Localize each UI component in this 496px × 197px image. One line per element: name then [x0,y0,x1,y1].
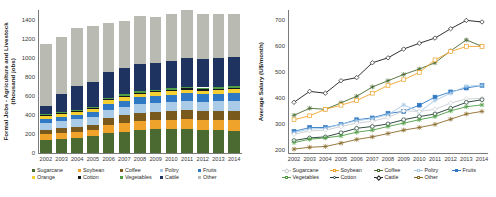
bar-segment-orange[interactable] [197,91,209,95]
bar-segment-other[interactable] [119,21,131,69]
bar-segment-fruits[interactable] [87,112,99,117]
bar-segment-cattle[interactable] [166,61,178,88]
bar-segment-cattle[interactable] [103,72,115,98]
table-row[interactable] [87,10,99,153]
bar-segment-other[interactable] [228,14,240,57]
bar-segment-poltry[interactable] [71,119,83,126]
legend-item-coffee[interactable]: Coffee [120,167,160,174]
line-series-sugarcane[interactable] [292,96,484,136]
table-row[interactable] [166,10,178,153]
bar-segment-orange[interactable] [40,116,52,119]
bar-segment-vegetables[interactable] [150,90,162,92]
bar-segment-coffee[interactable] [166,111,178,120]
bar-segment-sugarcane[interactable] [103,133,115,153]
bar-segment-coffee[interactable] [40,130,52,135]
bar-segment-fruits[interactable] [228,93,240,101]
bar-segment-vegetables[interactable] [40,114,52,115]
bar-segment-vegetables[interactable] [166,88,178,90]
bar-segment-cattle[interactable] [181,58,193,86]
table-row[interactable] [228,10,240,153]
bar-segment-orange[interactable] [150,92,162,96]
bar-segment-coffee[interactable] [71,127,83,132]
bar-segment-poltry[interactable] [181,101,193,111]
bar-segment-poltry[interactable] [213,101,225,111]
bar-segment-coffee[interactable] [181,110,193,119]
bar-segment-sugarcane[interactable] [181,129,193,153]
bar-segment-poltry[interactable] [150,103,162,112]
table-row[interactable] [119,10,131,153]
bar-segment-poltry[interactable] [87,117,99,124]
bar-segment-poltry[interactable] [134,104,146,113]
legend-item-cattle[interactable]: Cattle [160,174,198,181]
bar-segment-cattle[interactable] [213,58,225,87]
legend-item-poltry[interactable]: Poltry [160,167,198,174]
table-row[interactable] [56,10,68,153]
bar-segment-cattle[interactable] [228,57,240,86]
bar-segment-cattle[interactable] [197,59,209,88]
bar-segment-cotton[interactable] [197,89,209,90]
bar-segment-cotton[interactable] [56,113,68,114]
bar-segment-cotton[interactable] [103,99,115,100]
bar-segment-fruits[interactable] [71,115,83,120]
bar-segment-soybean[interactable] [150,120,162,129]
table-row[interactable] [213,10,225,153]
bar-segment-sugarcane[interactable] [134,130,146,153]
bar-segment-coffee[interactable] [228,111,240,121]
legend-item-other[interactable]: Other [414,174,452,181]
bar-segment-cattle[interactable] [56,94,68,112]
legend-item-coffee[interactable]: Coffee [374,167,414,174]
bar-segment-soybean[interactable] [119,123,131,131]
bar-segment-soybean[interactable] [56,133,68,139]
bar-segment-soybean[interactable] [166,120,178,129]
table-row[interactable] [40,10,52,153]
bar-segment-vegetables[interactable] [197,88,209,90]
bar-segment-cattle[interactable] [40,106,52,114]
bar-segment-fruits[interactable] [181,93,193,100]
bar-segment-fruits[interactable] [150,96,162,103]
bar-segment-vegetables[interactable] [228,86,240,88]
bar-segment-other[interactable] [56,37,68,93]
legend-item-vegetables[interactable]: Vegetables [120,174,160,181]
bar-segment-vegetables[interactable] [181,87,193,89]
bar-segment-other[interactable] [134,16,146,64]
bar-segment-soybean[interactable] [87,130,99,136]
legend-item-soybean[interactable]: Soybean [330,167,374,174]
bar-segment-cotton[interactable] [150,91,162,92]
bar-segment-cotton[interactable] [166,90,178,91]
legend-item-cattle[interactable]: Cattle [374,174,414,181]
legend-item-cotton[interactable]: Cotton [330,174,374,181]
bar-segment-sugarcane[interactable] [119,132,131,153]
bar-segment-sugarcane[interactable] [56,139,68,153]
legend-item-sugarcane[interactable]: Sugarcane [32,167,78,174]
bar-segment-coffee[interactable] [150,112,162,121]
table-row[interactable] [197,10,209,153]
bar-segment-other[interactable] [150,17,162,63]
bar-segment-sugarcane[interactable] [213,130,225,153]
legend-item-fruits[interactable]: Fruits [452,167,488,174]
bar-segment-soybean[interactable] [213,120,225,130]
bar-segment-orange[interactable] [87,109,99,112]
bar-segment-coffee[interactable] [197,111,209,120]
bar-segment-vegetables[interactable] [213,87,225,89]
bar-segment-cattle[interactable] [71,86,83,110]
bar-segment-sugarcane[interactable] [228,131,240,153]
table-row[interactable] [134,10,146,153]
bar-segment-orange[interactable] [56,114,68,117]
legend-item-fruits[interactable]: Fruits [198,167,234,174]
legend-item-cotton[interactable]: Cotton [78,174,120,181]
bar-segment-other[interactable] [71,28,83,86]
bar-segment-sugarcane[interactable] [71,138,83,153]
bar-segment-poltry[interactable] [197,102,209,112]
bar-segment-cotton[interactable] [134,93,146,94]
bar-segment-coffee[interactable] [134,113,146,121]
bar-segment-poltry[interactable] [166,102,178,111]
bar-segment-cattle[interactable] [150,63,162,90]
legend-item-vegetables[interactable]: Vegetables [282,174,330,181]
bar-segment-cotton[interactable] [71,111,83,112]
bar-segment-sugarcane[interactable] [40,140,52,153]
bar-segment-other[interactable] [181,10,193,59]
bar-segment-cattle[interactable] [87,82,99,107]
bar-segment-soybean[interactable] [228,120,240,130]
bar-segment-other[interactable] [87,26,99,82]
bar-segment-other[interactable] [103,23,115,72]
